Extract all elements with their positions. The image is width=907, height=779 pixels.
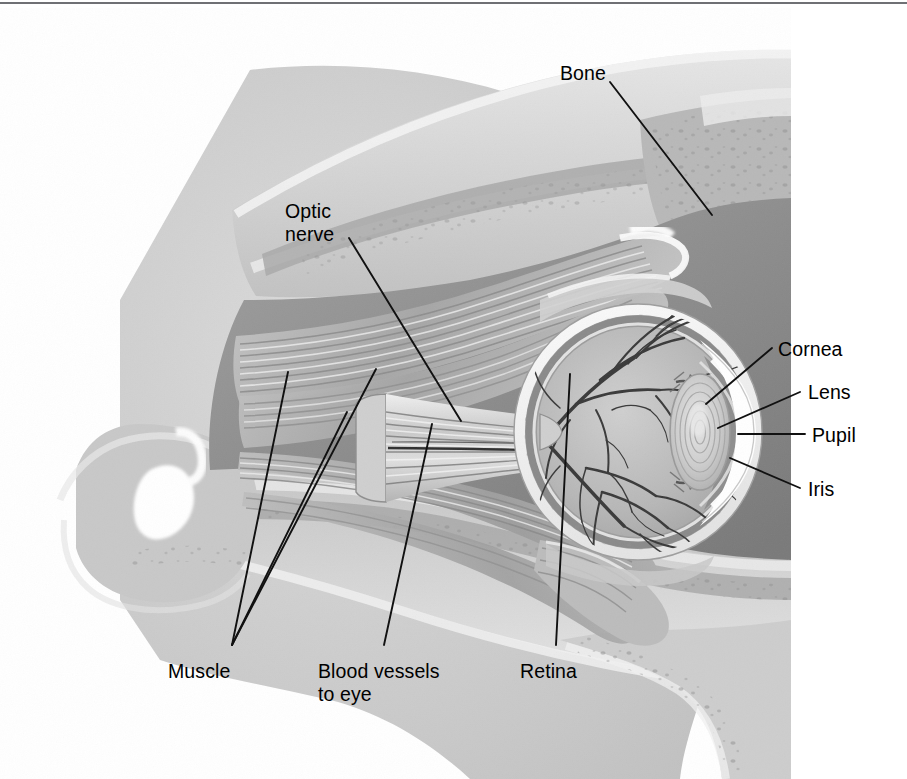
figure-page: Bone Opticnerve Cornea Lens Pupil Iris M… bbox=[0, 0, 907, 779]
label-blood-vessels-line1: Blood vessels bbox=[318, 660, 440, 682]
label-optic-nerve: Opticnerve bbox=[285, 200, 334, 246]
label-bone: Bone bbox=[560, 62, 606, 85]
label-optic-nerve-line1: Optic bbox=[285, 200, 331, 222]
label-pupil: Pupil bbox=[812, 424, 856, 447]
label-blood-vessels: Blood vesselsto eye bbox=[318, 660, 440, 706]
label-lens: Lens bbox=[808, 381, 851, 404]
eye-anatomy-illustration bbox=[0, 0, 907, 779]
label-blood-vessels-line2: to eye bbox=[318, 683, 372, 705]
label-retina: Retina bbox=[520, 660, 577, 683]
label-muscle: Muscle bbox=[168, 660, 230, 683]
label-iris: Iris bbox=[808, 478, 834, 501]
label-cornea: Cornea bbox=[778, 338, 843, 361]
label-optic-nerve-line2: nerve bbox=[285, 223, 334, 245]
